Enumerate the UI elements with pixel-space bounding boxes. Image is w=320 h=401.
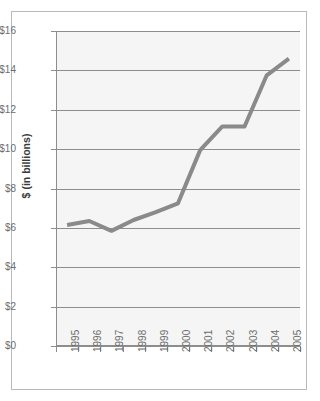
y-axis-tick-label: $6 — [0, 223, 16, 233]
x-axis-tick-label: 1995 — [71, 330, 81, 352]
y-axis-tick-label: $14 — [0, 65, 16, 75]
series-line — [67, 59, 289, 231]
x-axis-tick-label: 2000 — [182, 330, 192, 352]
y-axis-tick-label: $12 — [0, 105, 16, 115]
y-axis-tick-label: $4 — [0, 262, 16, 272]
y-axis-tick-label: $2 — [0, 302, 16, 312]
chart-screenshot: $ (in billions) $0$2$4$6$8$10$12$14$16 1… — [0, 0, 320, 401]
y-axis-tick-label: $10 — [0, 144, 16, 154]
x-axis-tick-label: 2002 — [226, 330, 236, 352]
line-chart-figure: $ (in billions) $0$2$4$6$8$10$12$14$16 1… — [0, 0, 320, 401]
x-axis-tick-label: 1998 — [138, 330, 148, 352]
y-axis-tick-label: $8 — [0, 184, 16, 194]
x-axis-tick-label: 2004 — [271, 330, 281, 352]
x-axis-tick-label: 1996 — [93, 330, 103, 352]
x-axis-tick-mark — [56, 346, 57, 352]
y-axis-tick-label: $0 — [0, 341, 16, 351]
y-axis-title: $ (in billions) — [20, 96, 32, 236]
x-axis-tick-label: 1999 — [160, 330, 170, 352]
x-axis-tick-label: 2003 — [249, 330, 259, 352]
data-line-series — [56, 31, 300, 346]
y-axis-tick-label: $16 — [0, 26, 16, 36]
x-axis-tick-label: 2005 — [293, 330, 303, 352]
x-axis-tick-label: 2001 — [204, 330, 214, 352]
x-axis-tick-label: 1997 — [115, 330, 125, 352]
